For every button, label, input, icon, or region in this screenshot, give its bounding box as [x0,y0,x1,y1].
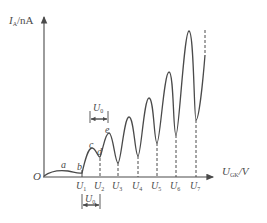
point-label-c: c [89,140,93,150]
point-label-d: d [97,147,102,157]
current-curve [44,31,205,176]
bottom-spacing-label: U0 [85,194,95,205]
tick-label-u1: U1 [76,181,86,192]
x-axis-label: UGK/V [222,166,248,178]
point-label-b: b [77,162,82,172]
tick-label-u5: U5 [151,181,161,192]
tick-label-u6: U6 [170,181,180,192]
origin-label: O [33,171,41,182]
top-spacing-label: U0 [93,103,103,114]
tick-label-u3: U3 [112,181,122,192]
franck-hertz-diagram: IA/nA UGK/V O a b c d e U1 U2 U3 U4 U5 U… [0,0,267,223]
tick-label-u4: U4 [132,181,142,192]
tick-label-u7: U7 [190,181,200,192]
point-label-a: a [61,160,66,170]
point-label-e: e [105,125,109,135]
tick-label-u2: U2 [94,181,104,192]
y-axis-label: IA/nA [9,15,34,27]
